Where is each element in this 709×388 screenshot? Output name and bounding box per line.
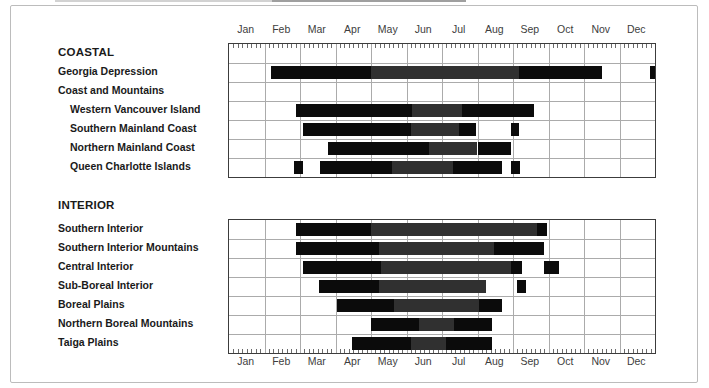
month-label-bottom-dec: Dec — [619, 354, 655, 368]
row-label: Northern Boreal Mountains — [58, 314, 193, 333]
minor-tick — [509, 44, 510, 48]
minor-tick — [500, 44, 501, 48]
minor-tick — [597, 349, 598, 353]
bar-segment-gray — [379, 280, 486, 293]
minor-tick — [256, 44, 257, 48]
minor-tick — [455, 44, 456, 48]
bar-segment-black — [462, 104, 534, 117]
bar-segment-black — [303, 123, 411, 136]
month-label-bottom-apr: Apr — [335, 354, 371, 368]
minor-tick — [597, 44, 598, 48]
minor-tick — [615, 349, 616, 353]
month-label-bottom-sep: Sep — [512, 354, 548, 368]
row-gridline — [229, 296, 655, 297]
bar-segment-black — [478, 142, 511, 155]
minor-tick — [429, 44, 430, 48]
minor-tick — [646, 349, 647, 353]
row-gridline — [229, 258, 655, 259]
bar-segment-black — [296, 242, 379, 255]
minor-tick — [566, 44, 567, 48]
minor-tick — [637, 44, 638, 48]
minor-tick — [251, 44, 252, 48]
minor-tick — [544, 44, 545, 48]
bar-segment-black — [294, 161, 303, 174]
minor-tick — [588, 349, 589, 353]
minor-tick — [269, 44, 270, 48]
row-label: Central Interior — [58, 257, 133, 276]
minor-tick — [473, 44, 474, 48]
bar-segment-gray — [371, 223, 537, 236]
minor-tick — [451, 44, 452, 48]
row-gridline — [229, 63, 655, 64]
bar-segment-black — [446, 337, 493, 350]
row-label: Southern Interior Mountains — [58, 238, 199, 257]
minor-tick — [424, 44, 425, 48]
month-label-top-jul: Jul — [441, 22, 477, 36]
minor-tick — [398, 44, 399, 48]
minor-tick — [411, 44, 412, 48]
month-label-top-aug: Aug — [477, 22, 513, 36]
minor-tick — [438, 44, 439, 48]
minor-tick — [344, 349, 345, 353]
minor-tick — [309, 44, 310, 48]
minor-tick — [322, 349, 323, 353]
bar-segment-black — [454, 318, 492, 331]
row-label: Sub-Boreal Interior — [58, 276, 153, 295]
minor-tick — [349, 44, 350, 48]
minor-tick — [651, 44, 652, 48]
row-gridline — [229, 315, 655, 316]
season-table-interior — [228, 219, 656, 354]
bar-segment-black — [544, 261, 559, 274]
minor-tick — [491, 44, 492, 48]
minor-tick — [628, 44, 629, 48]
minor-tick — [624, 349, 625, 353]
minor-tick — [278, 44, 279, 48]
bar-segment-black — [271, 66, 371, 79]
minor-tick — [273, 44, 274, 48]
minor-tick — [327, 349, 328, 353]
month-label-top-jun: Jun — [406, 22, 442, 36]
minor-tick — [642, 349, 643, 353]
minor-tick — [562, 349, 563, 353]
minor-tick — [256, 349, 257, 353]
season-table-coastal — [228, 43, 656, 178]
minor-tick — [495, 349, 496, 353]
minor-tick — [340, 44, 341, 48]
month-label-bottom-jun: Jun — [406, 354, 442, 368]
minor-tick — [313, 349, 314, 353]
row-label: Northern Mainland Coast — [70, 138, 195, 157]
row-gridline — [229, 139, 655, 140]
row-label: Coast and Mountains — [58, 81, 164, 100]
row-gridline — [229, 120, 655, 121]
bar-segment-black — [296, 104, 412, 117]
minor-tick — [362, 44, 363, 48]
month-label-top-jan: Jan — [228, 22, 264, 36]
minor-tick — [500, 349, 501, 353]
bar-segment-gray — [394, 299, 479, 312]
minor-tick — [593, 349, 594, 353]
minor-tick — [486, 44, 487, 48]
minor-tick — [304, 349, 305, 353]
month-label-bottom-feb: Feb — [264, 354, 300, 368]
month-label-top-mar: Mar — [299, 22, 335, 36]
minor-tick — [540, 349, 541, 353]
month-label-top-feb: Feb — [264, 22, 300, 36]
month-label-bottom-jan: Jan — [228, 354, 264, 368]
minor-tick — [344, 44, 345, 48]
minor-tick — [247, 349, 248, 353]
minor-tick — [278, 349, 279, 353]
minor-tick — [349, 349, 350, 353]
month-label-bottom-oct: Oct — [548, 354, 584, 368]
minor-tick — [247, 44, 248, 48]
minor-tick — [535, 44, 536, 48]
minor-tick — [331, 349, 332, 353]
minor-tick — [260, 349, 261, 353]
minor-tick — [526, 349, 527, 353]
row-label: Queen Charlotte Islands — [70, 157, 191, 176]
minor-tick — [651, 349, 652, 353]
bar-segment-black — [511, 261, 523, 274]
minor-tick — [588, 44, 589, 48]
minor-tick — [282, 349, 283, 353]
bar-segment-gray — [392, 161, 453, 174]
row-label: Southern Interior — [58, 219, 143, 238]
